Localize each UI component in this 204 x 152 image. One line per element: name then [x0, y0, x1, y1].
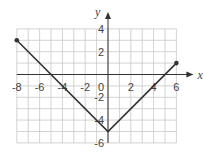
y-axis-arrow-icon	[105, 12, 111, 19]
x-tick-label: -8	[12, 81, 22, 93]
x-axis-arrow-icon	[186, 72, 193, 78]
axes	[17, 12, 194, 143]
x-tick-label: 2	[128, 81, 134, 93]
y-tick-label: -2	[94, 91, 104, 103]
endpoint-dot	[174, 61, 179, 66]
endpoint-dot	[14, 38, 19, 43]
x-tick-label: -2	[80, 81, 90, 93]
x-axis-label: x	[196, 68, 203, 82]
origin-label: 0	[98, 81, 104, 93]
x-tick-label: 6	[173, 81, 179, 93]
y-tick-label: 4	[98, 23, 104, 35]
graph: -8-6-4-224642-2-4-60 x y	[0, 0, 204, 152]
x-tick-label: -6	[35, 81, 45, 93]
y-tick-label: -6	[94, 137, 104, 149]
y-tick-label: 2	[98, 46, 104, 58]
y-axis-label: y	[94, 5, 101, 19]
